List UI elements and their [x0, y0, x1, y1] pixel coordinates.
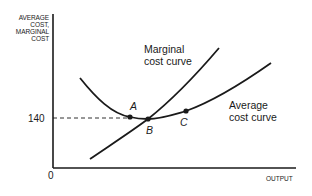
- ac-label-line-2: cost curve: [229, 111, 277, 123]
- mc-label-line-1: Marginal: [144, 43, 192, 55]
- point-b-label: B: [146, 124, 153, 136]
- marginal-cost-label: Marginal cost curve: [144, 43, 192, 67]
- y-tick-140: 140: [28, 113, 45, 124]
- y-label-line-3: MARGINAL: [2, 28, 49, 35]
- origin-label: 0: [48, 170, 54, 181]
- point-a-label: A: [130, 100, 137, 112]
- y-axis-label: AVERAGE COST, MARGINAL COST: [2, 14, 49, 42]
- ac-label-line-1: Average: [229, 99, 277, 111]
- point-b-marker: [145, 116, 150, 121]
- y-label-line-4: COST: [2, 35, 49, 42]
- point-c-label: C: [180, 116, 188, 128]
- x-axis-label: OUTPUT: [266, 175, 293, 182]
- y-label-line-1: AVERAGE: [2, 14, 49, 21]
- point-c-marker: [183, 108, 188, 113]
- average-cost-label: Average cost curve: [229, 99, 277, 123]
- y-label-line-2: COST,: [2, 21, 49, 28]
- point-a-marker: [127, 114, 132, 119]
- mc-label-line-2: cost curve: [144, 55, 192, 67]
